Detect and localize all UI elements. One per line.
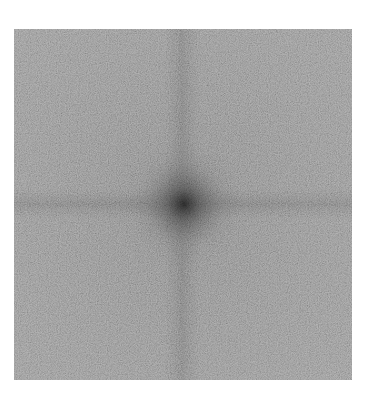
spectrum-image xyxy=(14,29,352,380)
noise-layer xyxy=(14,29,352,380)
spectrum-canvas xyxy=(14,29,352,380)
